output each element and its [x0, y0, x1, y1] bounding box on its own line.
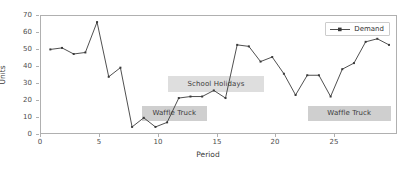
data-point	[376, 38, 378, 40]
x-tick-label: 10	[154, 138, 163, 146]
y-tick-mark	[36, 117, 39, 118]
x-axis-title: Period	[0, 150, 416, 159]
data-point	[318, 74, 320, 76]
y-tick-label: 70	[0, 11, 32, 19]
x-tick-label: 20	[271, 138, 280, 146]
data-point	[73, 53, 75, 55]
chart-figure: 0 10 20 30 40 50 60 70 Units School Holi…	[0, 0, 416, 171]
x-tick-mark	[40, 134, 41, 137]
chart-legend[interactable]: Demand	[325, 22, 390, 36]
data-point	[131, 126, 133, 128]
data-point	[271, 56, 273, 58]
x-tick-mark	[99, 134, 100, 137]
data-point	[189, 96, 191, 98]
data-point	[365, 41, 367, 43]
y-axis-title: Units	[0, 65, 7, 84]
y-tick-mark	[36, 100, 39, 101]
y-tick-mark	[36, 66, 39, 67]
y-tick-mark	[36, 15, 39, 16]
x-tick-mark	[334, 134, 335, 137]
data-point	[166, 121, 168, 123]
data-point	[295, 94, 297, 96]
data-point	[201, 96, 203, 98]
demand-line	[50, 22, 389, 127]
y-tick-mark	[36, 32, 39, 33]
data-point	[283, 73, 285, 75]
y-tick-mark	[36, 49, 39, 50]
legend-line-marker-icon	[330, 26, 350, 33]
x-tick-label: 0	[38, 138, 42, 146]
x-tick-label: 25	[330, 138, 339, 146]
data-point	[236, 44, 238, 46]
data-point	[388, 44, 390, 46]
data-point	[96, 21, 98, 23]
x-tick-label: 5	[97, 138, 101, 146]
y-tick-label: 50	[0, 45, 32, 53]
data-point	[306, 74, 308, 76]
data-point	[225, 97, 227, 99]
plot-area: School Holidays Waffle Truck Waffle Truc…	[40, 15, 397, 134]
x-tick-mark	[217, 134, 218, 137]
data-point	[260, 61, 262, 63]
data-point	[248, 45, 250, 47]
y-tick-label: 10	[0, 113, 32, 121]
data-point	[108, 76, 110, 78]
data-point	[143, 117, 145, 119]
data-point	[178, 97, 180, 99]
data-point	[61, 47, 63, 49]
data-point	[330, 96, 332, 98]
legend-label-demand: Demand	[354, 25, 384, 33]
x-tick-mark	[275, 134, 276, 137]
data-point	[119, 67, 121, 69]
data-point	[154, 126, 156, 128]
y-tick-label: 60	[0, 28, 32, 36]
data-point	[49, 48, 51, 50]
data-point	[353, 62, 355, 64]
y-tick-label: 20	[0, 96, 32, 104]
y-tick-label: 0	[0, 130, 32, 138]
x-tick-mark	[158, 134, 159, 137]
data-point	[341, 68, 343, 70]
y-tick-mark	[36, 134, 39, 135]
y-axis-ticks: 0 10 20 30 40 50 60 70	[0, 0, 40, 171]
data-point	[84, 51, 86, 53]
x-tick-label: 15	[213, 138, 222, 146]
y-tick-mark	[36, 83, 39, 84]
data-point	[213, 89, 215, 91]
